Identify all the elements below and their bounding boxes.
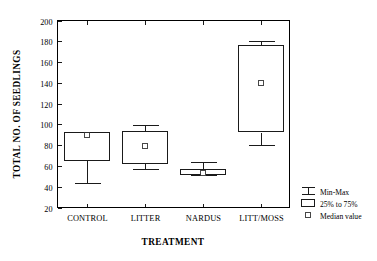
y-tick-label: 80: [44, 142, 52, 151]
box-plot-control: [65, 133, 110, 184]
x-tick-label-control: CONTROL: [67, 214, 108, 223]
y-tick-label: 160: [40, 59, 52, 68]
x-tick-label-nardus: NARDUS: [186, 214, 222, 223]
y-tick-label: 140: [40, 80, 52, 89]
chart-legend: Min-Max25% to 75%Median value: [302, 188, 363, 221]
box-plot-litter: [123, 126, 168, 170]
y-tick-label: 180: [40, 38, 52, 47]
y-axis-ticks: 20406080100120140160180200: [40, 18, 61, 214]
chart-canvas: 20406080100120140160180200 CONTROLLITTER…: [0, 0, 377, 261]
boxplot-chart: 20406080100120140160180200 CONTROLLITTER…: [0, 0, 377, 261]
y-tick-label: 20: [44, 205, 52, 214]
legend-entry-median: Median value: [306, 212, 363, 221]
y-tick-label: 40: [44, 184, 52, 193]
median-marker: [143, 144, 148, 149]
median-marker: [85, 133, 90, 138]
y-tick-label: 120: [40, 101, 52, 110]
x-axis-title: TREATMENT: [142, 237, 205, 247]
x-tick-label-litt-moss: LITT/MOSS: [239, 214, 284, 223]
y-tick-label: 100: [40, 121, 52, 130]
legend-label-min-max: Min-Max: [320, 188, 349, 197]
median-marker: [201, 171, 206, 176]
iqr-box: [239, 46, 284, 132]
box-plot-nardus: [181, 163, 226, 176]
legend-label-iqr: 25% to 75%: [320, 200, 358, 209]
x-tick-label-litter: LITTER: [131, 214, 161, 223]
legend-label-median: Median value: [320, 212, 362, 221]
legend-entry-iqr: 25% to 75%: [302, 200, 359, 209]
median-marker: [259, 81, 264, 86]
box-plots-group: [65, 42, 284, 184]
y-axis-title: TOTAL NO. OF SEEDLINGS: [12, 49, 22, 178]
y-tick-label: 60: [44, 163, 52, 172]
y-tick-label: 200: [40, 18, 52, 27]
median-square-icon: [306, 213, 311, 218]
legend-entry-min-max: Min-Max: [302, 188, 350, 197]
box-icon: [302, 200, 315, 207]
box-plot-litt-moss: [239, 42, 284, 146]
